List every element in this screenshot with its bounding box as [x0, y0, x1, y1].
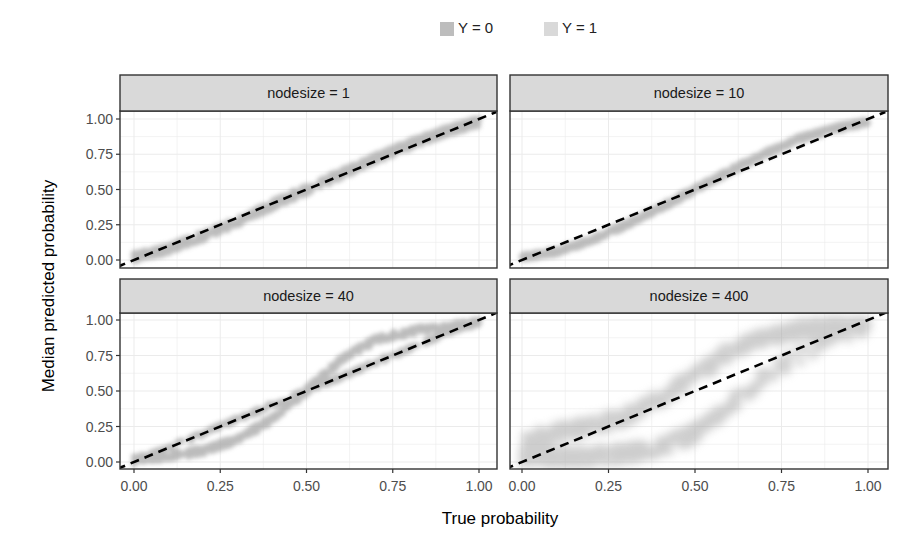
x-tick-label: 0.75 — [379, 478, 406, 494]
facet-strip-label: nodesize = 400 — [650, 288, 749, 304]
x-tick-label: 1.00 — [465, 478, 492, 494]
facet-strip-label: nodesize = 40 — [263, 288, 354, 304]
x-tick-label: 0.25 — [595, 478, 622, 494]
x-tick-label: 0.00 — [120, 478, 147, 494]
y-tick-label: 0.25 — [86, 217, 113, 233]
x-tick-label: 0.25 — [207, 478, 234, 494]
y-tick-label: 0.25 — [86, 419, 113, 435]
facet-panel: nodesize = 10.000.250.500.751.00 — [86, 75, 497, 268]
y-tick-label: 1.00 — [86, 111, 113, 127]
x-tick-label: 0.75 — [768, 478, 795, 494]
y-tick-label: 0.00 — [86, 252, 113, 268]
facet-panel: nodesize = 10 — [505, 75, 888, 268]
y-tick-label: 0.50 — [86, 182, 113, 198]
y-axis-title: Median predicted probability — [39, 179, 58, 392]
y-tick-label: 0.00 — [86, 454, 113, 470]
facet-strip-label: nodesize = 1 — [267, 85, 350, 101]
x-tick-label: 0.50 — [293, 478, 320, 494]
facet-panel: nodesize = 400.000.250.500.751.000.000.2… — [86, 279, 497, 494]
y-tick-label: 0.75 — [86, 146, 113, 162]
facet-strip-label: nodesize = 10 — [654, 85, 745, 101]
y-tick-label: 0.75 — [86, 348, 113, 364]
facet-panel: nodesize = 4000.000.250.500.751.00 — [505, 279, 888, 494]
facet-figure: nodesize = 10.000.250.500.751.00nodesize… — [0, 0, 921, 553]
x-tick-label: 0.50 — [681, 478, 708, 494]
panels: nodesize = 10.000.250.500.751.00nodesize… — [86, 75, 888, 494]
y-tick-label: 1.00 — [86, 312, 113, 328]
y-tick-label: 0.50 — [86, 383, 113, 399]
x-tick-label: 0.00 — [508, 478, 535, 494]
x-tick-label: 1.00 — [854, 478, 881, 494]
x-axis-title: True probability — [442, 509, 559, 528]
